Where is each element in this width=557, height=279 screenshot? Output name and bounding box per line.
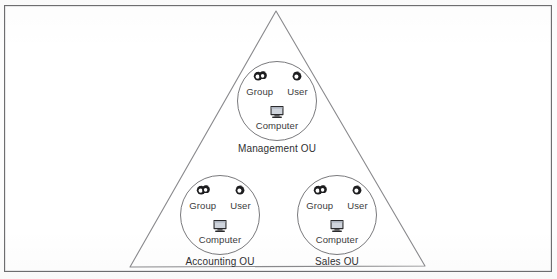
- group-label: Group: [189, 200, 216, 212]
- ou-group-entry[interactable]: Group: [246, 71, 273, 98]
- group-icon: [195, 185, 211, 199]
- diagram-canvas: Group User Computer Management OU: [0, 0, 557, 279]
- ou-label-sales: Sales OU: [257, 255, 417, 268]
- ou-group-entry[interactable]: Group: [189, 185, 216, 212]
- user-icon: [232, 185, 248, 199]
- ou-group-entry[interactable]: Group: [306, 185, 333, 212]
- ou-user-entry[interactable]: User: [287, 71, 307, 98]
- user-label: User: [347, 200, 367, 212]
- computer-icon: [212, 219, 228, 233]
- group-label: Group: [246, 86, 273, 98]
- ou-icon-row: Group User: [297, 185, 377, 212]
- ou-node-management[interactable]: Group User Computer: [237, 61, 317, 141]
- ou-user-entry[interactable]: User: [347, 185, 367, 212]
- user-icon: [349, 185, 365, 199]
- user-icon: [289, 71, 305, 85]
- ou-label-management: Management OU: [197, 142, 357, 155]
- group-label: Group: [306, 200, 333, 212]
- user-label: User: [287, 86, 307, 98]
- computer-label: Computer: [316, 234, 359, 246]
- ou-user-entry[interactable]: User: [230, 185, 250, 212]
- group-icon: [252, 71, 268, 85]
- ou-node-sales[interactable]: Group User Computer: [297, 175, 377, 255]
- computer-label: Computer: [256, 120, 299, 132]
- ou-icon-row: Group User: [237, 71, 317, 98]
- ou-computer-entry[interactable]: Computer: [237, 105, 317, 132]
- computer-icon: [329, 219, 345, 233]
- ou-computer-entry[interactable]: Computer: [180, 219, 260, 246]
- group-icon: [312, 185, 328, 199]
- ou-node-accounting[interactable]: Group User Computer: [180, 175, 260, 255]
- ou-computer-entry[interactable]: Computer: [297, 219, 377, 246]
- ou-icon-row: Group User: [180, 185, 260, 212]
- computer-icon: [269, 105, 285, 119]
- computer-label: Computer: [199, 234, 242, 246]
- user-label: User: [230, 200, 250, 212]
